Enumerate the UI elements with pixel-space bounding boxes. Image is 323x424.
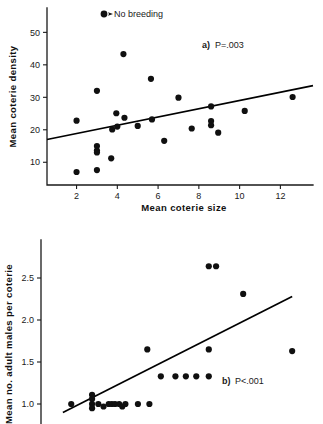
data-point xyxy=(242,108,248,114)
data-point xyxy=(73,169,79,175)
data-point xyxy=(206,346,212,352)
data-point xyxy=(121,115,127,121)
regression-line-a xyxy=(47,86,313,140)
data-point xyxy=(108,155,114,161)
data-point xyxy=(161,138,167,144)
data-point xyxy=(175,95,181,101)
scatter-plot-b: 1.01.52.02.5Mean no. adult males per cot… xyxy=(0,212,323,424)
data-point xyxy=(215,130,221,136)
y-tick-label-b: 1.0 xyxy=(21,399,34,409)
x-axis-title-a: Mean coterie size xyxy=(141,202,226,212)
y-tick-label-b: 2.5 xyxy=(21,273,34,283)
data-point xyxy=(208,103,214,109)
legend-marker-icon xyxy=(101,11,108,18)
data-point xyxy=(73,118,79,124)
x-tick-label-a: 10 xyxy=(235,191,245,201)
data-point xyxy=(94,167,100,173)
data-point xyxy=(135,401,141,407)
panel-letter-b: b) xyxy=(222,376,231,386)
data-point xyxy=(290,94,296,100)
data-point xyxy=(193,373,199,379)
data-point xyxy=(146,401,152,407)
data-point xyxy=(149,116,155,122)
data-point xyxy=(144,346,150,352)
x-tick-label-a: 8 xyxy=(196,191,201,201)
data-point xyxy=(120,51,126,57)
panel-annotation-b: P<.001 xyxy=(235,376,264,386)
data-point xyxy=(122,401,128,407)
data-point xyxy=(94,88,100,94)
data-point xyxy=(289,348,295,354)
data-point xyxy=(208,122,214,128)
data-point xyxy=(158,373,164,379)
data-point xyxy=(113,110,119,116)
x-tick-label-a: 6 xyxy=(156,191,161,201)
data-point xyxy=(240,291,246,297)
chart-panel-a: 102030405024681012Mean coterie sizeMean … xyxy=(0,0,323,212)
x-tick-label-a: 12 xyxy=(275,191,285,201)
x-tick-label-a: 4 xyxy=(115,191,120,201)
data-point xyxy=(206,373,212,379)
data-point xyxy=(89,405,95,411)
figure-container: 102030405024681012Mean coterie sizeMean … xyxy=(0,0,323,424)
y-tick-label-b: 1.5 xyxy=(21,357,34,367)
data-point xyxy=(114,123,120,129)
y-tick-label-a: 30 xyxy=(30,93,40,103)
data-point xyxy=(206,263,212,269)
chart-panel-b: 1.01.52.02.5Mean no. adult males per cot… xyxy=(0,212,323,424)
y-tick-label-a: 40 xyxy=(30,60,40,70)
legend-label: No breeding xyxy=(114,9,163,19)
y-tick-label-a: 50 xyxy=(30,28,40,38)
y-tick-label-a: 10 xyxy=(30,157,40,167)
data-point xyxy=(183,373,189,379)
panel-annotation-a: P=.003 xyxy=(215,40,244,50)
data-point xyxy=(148,76,154,82)
legend-arrow-icon xyxy=(108,12,113,16)
data-point xyxy=(68,401,74,407)
regression-line-b xyxy=(63,296,292,412)
y-tick-label-a: 20 xyxy=(30,125,40,135)
y-axis-title-a: Mean coterie density xyxy=(7,45,18,147)
y-tick-label-b: 2.0 xyxy=(21,315,34,325)
scatter-plot-a: 102030405024681012Mean coterie sizeMean … xyxy=(0,0,323,212)
panel-letter-a: a) xyxy=(202,40,210,50)
y-axis-title-b: Mean no. adult males per coterie xyxy=(3,264,14,424)
data-point xyxy=(94,149,100,155)
data-point xyxy=(172,373,178,379)
x-tick-label-a: 2 xyxy=(74,191,79,201)
data-point xyxy=(213,263,219,269)
data-point xyxy=(135,123,141,129)
data-point xyxy=(189,125,195,131)
